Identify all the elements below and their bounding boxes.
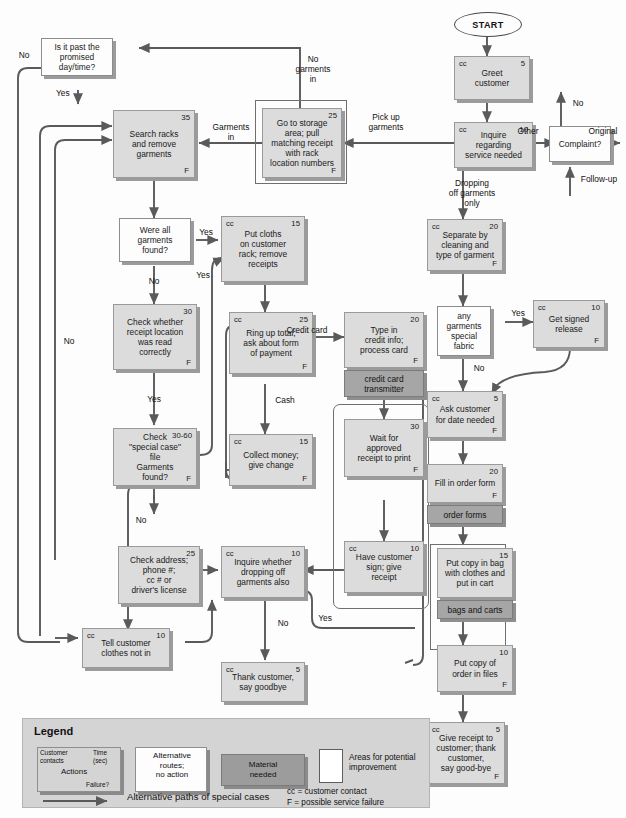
node-text: Wait for approved receipt to print xyxy=(357,433,410,464)
node-text: Inquire whether dropping off garments al… xyxy=(234,557,292,588)
node-go-to-storage[interactable]: 25 Go to storage area; pull matching rec… xyxy=(262,108,342,178)
decision-special-fabric[interactable]: any garments special fabric xyxy=(437,306,491,356)
cc-marker: cc xyxy=(234,315,242,325)
node-text: Tell customer clothes not in xyxy=(101,638,150,658)
time-marker: 15 xyxy=(499,551,508,561)
time-marker: 25 xyxy=(299,315,308,325)
node-put-cloths[interactable]: cc 15 Put cloths on customer rack; remov… xyxy=(221,216,305,282)
node-ring-up-total[interactable]: cc 25 Ring up total; ask about form of p… xyxy=(229,312,313,374)
cc-marker: cc xyxy=(226,665,234,675)
time-marker: 30 xyxy=(410,422,419,432)
time-marker: 10 xyxy=(156,631,165,641)
node-text: Put cloths on customer rack; remove rece… xyxy=(239,229,287,270)
node-check-special-case[interactable]: 30-60 Check "special case" file Garments… xyxy=(113,428,197,486)
label-no-garments-in: No garments in xyxy=(290,54,336,84)
failure-marker: F xyxy=(492,426,497,436)
time-marker: 20 xyxy=(489,222,498,232)
failure-marker: F xyxy=(302,474,307,484)
cc-marker: cc xyxy=(234,437,242,447)
material-bags-and-carts: bags and carts xyxy=(437,600,513,619)
flowchart-canvas: START cc 5 Greet customer cc 10 Inquire … xyxy=(0,0,626,818)
material-text: bags and carts xyxy=(448,605,503,615)
node-check-address[interactable]: 25 Check address; phone #; cc # or drive… xyxy=(118,546,200,604)
failure-marker: F xyxy=(492,491,497,501)
cc-marker: cc xyxy=(432,394,440,404)
label-yes-to-put-cloths: Yes xyxy=(190,270,216,280)
node-text: Ask customer for date needed xyxy=(436,404,495,424)
node-text: Collect money; give change xyxy=(243,450,298,470)
cc-marker: cc xyxy=(432,725,440,735)
node-text: Check whether receipt location was read … xyxy=(127,317,183,358)
node-inquire-dropping-off[interactable]: cc 10 Inquire whether dropping off garme… xyxy=(221,546,305,598)
node-search-racks[interactable]: 35 Search racks and remove garments F xyxy=(113,110,195,178)
node-have-customer-sign[interactable]: cc 10 Have customer sign; give receipt xyxy=(344,541,424,593)
failure-marker: F xyxy=(184,166,189,176)
cc-marker: cc xyxy=(349,544,357,554)
time-marker: 5 xyxy=(496,725,500,735)
label-credit-card: Credit card xyxy=(274,325,340,335)
decision-all-garments-found[interactable]: Were all garments found? xyxy=(119,218,191,262)
node-text: Have customer sign; give receipt xyxy=(356,552,412,583)
time-marker: 10 xyxy=(291,549,300,559)
node-type-credit-info[interactable]: 20 Type in credit info; process card F xyxy=(344,312,424,368)
failure-marker: F xyxy=(594,336,599,346)
legend-actions-label: Actions xyxy=(61,767,87,777)
decision-past-promised[interactable]: Is it past the promised day/time? xyxy=(41,38,113,76)
legend-material-text: Material needed xyxy=(227,760,299,779)
label-no-special-case: No xyxy=(128,515,154,525)
failure-marker: F xyxy=(502,680,507,690)
node-text: Check address; phone #; cc # or driver's… xyxy=(130,555,188,596)
cc-marker: cc xyxy=(226,219,234,229)
legend-improvement-sample xyxy=(319,749,343,783)
node-text: Give receipt to customer; thank customer… xyxy=(436,733,496,774)
start-label: START xyxy=(472,20,503,30)
label-cash: Cash xyxy=(270,395,300,405)
cc-marker: cc xyxy=(459,59,467,69)
node-separate-by-cleaning[interactable]: cc 20 Separate by cleaning and type of g… xyxy=(427,219,503,271)
label-follow-up: Follow-up xyxy=(575,174,623,184)
label-no-dropping: No xyxy=(270,618,296,628)
node-text: Put copy of order in files xyxy=(452,658,498,678)
label-original: Original xyxy=(581,126,625,136)
node-collect-money[interactable]: cc 15 Collect money; give change F xyxy=(229,434,313,486)
legend-failure-label: Failure? xyxy=(86,781,109,789)
cc-marker: cc xyxy=(226,549,234,559)
material-credit-card-transmitter: credit card transmitter xyxy=(344,370,424,397)
node-text: Thank customer, say goodbye xyxy=(232,672,294,692)
material-text: credit card transmitter xyxy=(364,374,404,394)
label-dropping-off-only: Dropping off garments only xyxy=(434,178,510,208)
material-order-forms: order forms xyxy=(427,505,503,524)
legend-cc-key: cc = customer contact xyxy=(287,787,367,797)
node-put-copy-in-files[interactable]: 10 Put copy of order in files F xyxy=(437,645,513,692)
node-give-receipt[interactable]: cc 5 Give receipt to customer; thank cus… xyxy=(427,722,505,784)
node-wait-approved-receipt[interactable]: 30 Wait for approved receipt to print F xyxy=(344,419,424,477)
node-text: Type in credit info; process card xyxy=(360,325,408,356)
label-yes-dropping: Yes xyxy=(312,613,338,623)
time-marker: 10 xyxy=(591,303,600,313)
cc-marker: cc xyxy=(432,222,440,232)
time-marker: 10 xyxy=(499,648,508,658)
time-marker: 15 xyxy=(299,437,308,447)
node-fill-order-form[interactable]: 20 Fill in order form F xyxy=(427,464,503,503)
failure-marker: F xyxy=(302,362,307,372)
failure-marker: F xyxy=(331,166,336,176)
label-yes-past-promised: Yes xyxy=(56,88,84,98)
node-text: Go to storage area; pull matching receip… xyxy=(270,118,334,169)
time-marker: 30 xyxy=(183,307,192,317)
time-marker: 25 xyxy=(186,549,195,559)
time-marker: 20 xyxy=(410,315,419,325)
node-ask-date-needed[interactable]: cc 5 Ask customer for date needed F xyxy=(427,391,503,438)
node-put-copy-in-bag[interactable]: 15 Put copy in bag with clothes and put … xyxy=(437,548,513,598)
label-yes-all-found: Yes xyxy=(193,227,219,237)
node-thank-customer[interactable]: cc 5 Thank customer, say goodbye xyxy=(221,662,305,702)
node-greet-customer[interactable]: cc 5 Greet customer xyxy=(454,56,530,100)
legend-alternative-text: Alternative routes; no action xyxy=(143,751,201,780)
label-no-top-left: No xyxy=(10,50,38,60)
node-check-receipt-location[interactable]: 30 Check whether receipt location was re… xyxy=(113,304,197,370)
decision-text: Complaint? xyxy=(559,139,601,149)
node-tell-clothes-not-in[interactable]: cc 10 Tell customer clothes not in xyxy=(82,628,170,668)
legend-alt-paths-text: Alternative paths of special cases xyxy=(127,793,269,801)
node-get-signed-release[interactable]: cc 10 Get signed release F xyxy=(533,300,605,348)
decision-text: any garments special fabric xyxy=(447,311,482,352)
cc-marker: cc xyxy=(538,303,546,313)
